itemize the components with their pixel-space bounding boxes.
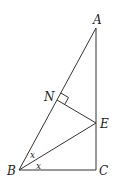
angle-label-lower: x [36,161,41,171]
label-a: A [92,13,102,27]
label-n: N [43,90,55,104]
label-b: B [6,164,16,178]
segment-ne [57,100,96,123]
angle-label-upper: x [30,150,35,160]
label-e: E [99,117,109,131]
segment-ab [19,28,96,170]
label-c: C [99,164,108,178]
segment-be [19,123,96,170]
geometry-diagram: A N E B C x x [0,0,120,183]
